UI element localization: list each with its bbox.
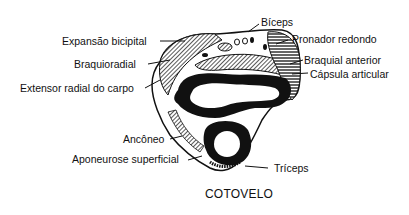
label-anconeo: Ancôneo — [123, 133, 164, 145]
label-triceps: Tríceps — [274, 162, 309, 174]
label-capsula-articular: Cápsula articular — [310, 68, 389, 80]
diagram-caption: COTOVELO — [205, 187, 273, 201]
label-braquial-anterior: Braquial anterior — [304, 54, 381, 66]
vessel — [218, 43, 232, 51]
label-aponeurose-superficial: Aponeurose superficial — [72, 153, 179, 165]
label-pronador-redondo: Pronador redondo — [292, 33, 377, 45]
label-extensor-radial-do-carpo: Extensor radial do carpo — [20, 82, 134, 94]
label-expansao-bicipital: Expansão bicipital — [62, 35, 147, 47]
label-braquioradial: Braquioradial — [74, 58, 136, 70]
label-biceps: Bíceps — [261, 16, 293, 28]
olecranon-fossa — [214, 131, 240, 157]
